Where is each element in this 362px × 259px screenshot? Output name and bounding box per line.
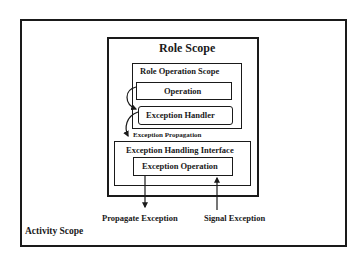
connectors-layer (0, 0, 362, 259)
exception-operation-label: Exception Operation (142, 162, 218, 171)
operation-label: Operation (164, 87, 201, 96)
exception-handler-label: Exception Handler (146, 111, 215, 120)
signal-exception-label: Signal Exception (204, 214, 265, 223)
role-scope-label: Role Scope (159, 42, 215, 54)
operation-to-handler-arrow (127, 87, 136, 109)
propagate-exception-label: Propagate Exception (102, 214, 178, 223)
activity-scope-label: Activity Scope (25, 227, 83, 237)
exception-handling-interface-label: Exception Handling Interface (126, 146, 234, 155)
exception-propagation-label: Exception Propagation (133, 132, 202, 139)
role-operation-scope-label: Role Operation Scope (140, 67, 219, 76)
